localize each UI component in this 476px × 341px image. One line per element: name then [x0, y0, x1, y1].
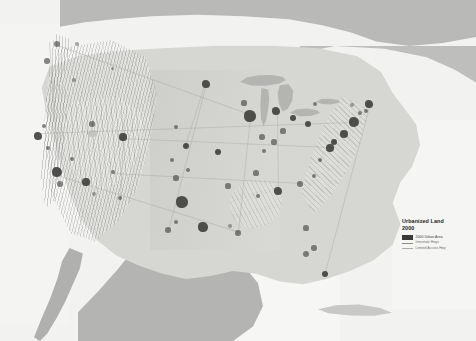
- legend-year: 2000: [402, 225, 468, 232]
- urban-area-philadelphia: [340, 130, 348, 138]
- legend-entry-label: Interstate Hwys: [416, 241, 439, 245]
- legend-title: Urbanized Land: [402, 218, 468, 225]
- urban-area-swatch-icon: [402, 235, 413, 240]
- urban-area-boston: [365, 100, 373, 108]
- urban-area-minneapolis: [202, 80, 210, 88]
- legend-entry-interstate-hwys: Interstate Hwys: [402, 241, 468, 245]
- urban-area-cincinnati: [271, 139, 276, 144]
- urban-area-jacksonville: [303, 225, 308, 230]
- urban-area-new-orleans: [235, 230, 241, 236]
- interstate-line-icon: [402, 243, 413, 244]
- urban-area-orlando: [311, 245, 317, 251]
- urban-area-washington-dc: [326, 144, 334, 152]
- urban-area-fresno: [46, 146, 50, 150]
- urban-area-spokane: [75, 42, 79, 46]
- urban-area-boise: [72, 78, 75, 81]
- urban-area-tucson: [92, 192, 96, 196]
- urban-area-chicago: [244, 110, 255, 121]
- map-legend: Urbanized Land 2000 2000 Urban Area Inte…: [402, 218, 468, 253]
- urban-area-phoenix: [82, 178, 89, 185]
- urban-area-indianapolis: [259, 134, 265, 140]
- legend-entry-urban-area: 2000 Urban Area: [402, 235, 468, 240]
- urban-area-kansas-city: [183, 143, 189, 149]
- urban-area-milwaukee: [241, 100, 246, 105]
- urban-area-charlotte: [297, 181, 303, 187]
- urban-area-columbus: [280, 128, 285, 133]
- legend-entry-limited-access-hwy: Limited Access Hwy: [402, 247, 468, 251]
- urban-area-providence: [364, 109, 368, 113]
- map-canvas: [0, 0, 476, 341]
- urban-area-san-francisco: [34, 132, 42, 140]
- urban-area-san-antonio: [165, 227, 171, 233]
- urban-area-portland: [44, 58, 50, 64]
- urban-area-baton-rouge: [228, 224, 232, 228]
- urban-area-san-diego: [57, 181, 63, 187]
- urban-area-houston: [198, 222, 207, 231]
- urban-area-tampa: [303, 251, 309, 257]
- limited-access-line-icon: [402, 248, 413, 249]
- contiguous-us-landmass: [30, 30, 420, 292]
- urban-area-albany: [350, 103, 354, 107]
- legend-entry-label: 2000 Urban Area: [416, 235, 443, 239]
- urban-area-denver: [119, 133, 126, 140]
- urban-area-oklahoma-city: [173, 175, 178, 180]
- urban-area-wichita: [170, 158, 174, 162]
- urban-area-nashville: [253, 170, 258, 175]
- urbanized-land-map: Urbanized Land 2000 2000 Urban Area Inte…: [0, 0, 476, 341]
- urban-area-baltimore: [331, 139, 337, 145]
- legend-entry-label: Limited Access Hwy: [416, 247, 446, 251]
- urban-area-salt-lake-city: [89, 121, 95, 127]
- urban-area-memphis: [225, 183, 230, 188]
- urban-area-billings: [111, 67, 114, 70]
- urban-area-dallas-fort-worth: [176, 196, 187, 207]
- urban-area-pittsburgh: [305, 121, 311, 127]
